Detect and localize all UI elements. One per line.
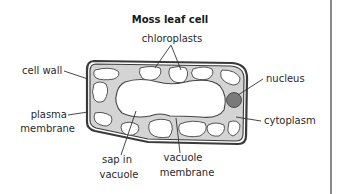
vacuole [116, 80, 226, 118]
label-sap-in-vacuole-2: vacuole [100, 169, 139, 180]
moss-leaf-cell-diagram: Moss leaf cell chloroplasts cell wall nu… [0, 0, 337, 194]
label-chloroplasts: chloroplasts [142, 33, 202, 44]
label-cytoplasm: cytoplasm [264, 115, 316, 126]
label-cell-wall: cell wall [22, 65, 62, 76]
label-nucleus: nucleus [266, 73, 305, 84]
label-plasma-membrane-1: plasma [31, 109, 67, 120]
diagram-title: Moss leaf cell [132, 14, 209, 25]
label-sap-in-vacuole-1: sap in [102, 154, 132, 165]
label-vacuole-membrane-2: membrane [160, 167, 215, 178]
label-plasma-membrane-2: membrane [20, 123, 75, 134]
label-vacuole-membrane-1: vacuole [164, 152, 203, 163]
nucleus [227, 93, 242, 108]
page-divider [330, 0, 332, 194]
